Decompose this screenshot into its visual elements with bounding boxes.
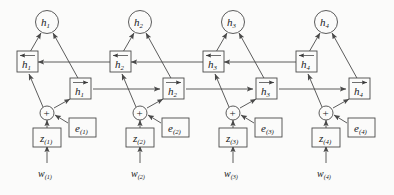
edge-embedding-to-sum-4: [334, 115, 347, 123]
edge-forward-to-output-1: [53, 33, 79, 80]
diagram-vector-layer: [0, 0, 394, 195]
figure-canvas: h1 h2 h3 h4 h1 h2 h3 h4 h1 h2 h3 h4 + + …: [0, 0, 394, 195]
forward-state-box-3: [256, 78, 277, 99]
output-node-circle-1: [36, 11, 59, 34]
edge-backward-to-output-3: [216, 33, 227, 52]
edge-sum-to-forward-3: [240, 99, 256, 108]
edge-sum-to-backward-1: [29, 74, 43, 107]
edge-sum-to-forward-2: [147, 99, 163, 108]
backward-state-box-1: [17, 51, 38, 72]
edge-sum-to-forward-1: [54, 99, 70, 108]
edge-forward-to-output-2: [146, 33, 172, 80]
embedding-box-1: [69, 118, 96, 137]
edge-sum-to-forward-4: [333, 99, 349, 108]
latent-box-4: [312, 128, 340, 147]
sum-node-circle-2: [133, 106, 147, 120]
edge-embedding-to-sum-2: [148, 115, 161, 123]
edge-embedding-to-sum-3: [241, 115, 254, 123]
output-node-circle-2: [129, 11, 152, 34]
latent-box-3: [219, 128, 247, 147]
embedding-box-2: [162, 118, 189, 137]
backward-state-box-3: [203, 51, 224, 72]
latent-box-1: [33, 128, 61, 147]
edge-sum-to-backward-3: [215, 74, 229, 107]
sum-node-circle-4: [319, 106, 333, 120]
output-node-circle-3: [222, 11, 245, 34]
output-node-circle-4: [315, 11, 338, 34]
edge-forward-to-output-3: [239, 33, 265, 80]
latent-box-2: [126, 128, 154, 147]
edge-forward-to-output-4: [332, 33, 358, 80]
forward-state-box-2: [163, 78, 184, 99]
sum-node-circle-3: [226, 106, 240, 120]
edge-backward-to-output-4: [309, 33, 320, 52]
forward-state-box-1: [70, 78, 91, 99]
forward-state-box-4: [349, 78, 370, 99]
edge-backward-to-output-1: [30, 33, 41, 52]
backward-state-box-2: [110, 51, 131, 72]
sum-node-circle-1: [40, 106, 54, 120]
edge-sum-to-backward-4: [308, 74, 322, 107]
embedding-box-3: [255, 118, 282, 137]
backward-state-box-4: [296, 51, 317, 72]
edge-embedding-to-sum-1: [55, 115, 68, 123]
edge-backward-to-output-2: [123, 33, 134, 52]
embedding-box-4: [348, 118, 375, 137]
edge-sum-to-backward-2: [122, 74, 136, 107]
